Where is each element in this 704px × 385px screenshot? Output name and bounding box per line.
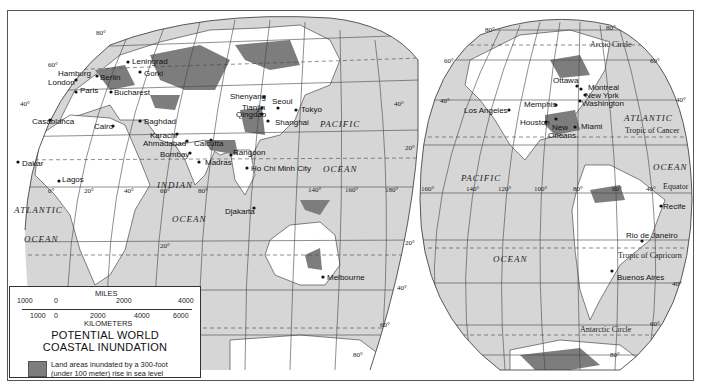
km-tick-2000: 2000 [90, 312, 106, 319]
city-houston: Houston [520, 118, 550, 127]
svg-text:ATLANTIC: ATLANTIC [13, 205, 63, 215]
city-london: London [48, 78, 75, 87]
city-madras: Madras [205, 158, 232, 167]
city-hochiminh: Ho Chi Minh City [251, 164, 311, 173]
city-djakarta: Djakarta [225, 207, 255, 216]
city-ottawa: Ottawa [553, 76, 579, 85]
svg-text:40°: 40° [20, 100, 30, 108]
map-legend: MILES 1000 0 2000 4000 1000 0 2000 4000 … [9, 286, 201, 378]
svg-text:100°: 100° [534, 185, 548, 193]
svg-text:Tropic of Cancer: Tropic of Cancer [625, 126, 680, 135]
svg-text:PACIFIC: PACIFIC [319, 119, 360, 129]
svg-text:80°: 80° [573, 185, 583, 193]
legend-description: Land areas inundated by a 300-foot (unde… [51, 361, 168, 378]
svg-text:40°: 40° [124, 187, 134, 195]
svg-text:40°: 40° [394, 100, 404, 108]
city-gorki: Gorki [144, 69, 163, 78]
city-miami: Miami [581, 122, 603, 131]
km-tick-1000: 1000 [30, 312, 46, 319]
city-neworleans-2: Orleans [548, 131, 576, 140]
city-tokyo: Tokyo [301, 105, 322, 114]
svg-text:OCEAN: OCEAN [323, 164, 358, 174]
svg-text:Equator: Equator [663, 182, 689, 191]
svg-text:80°: 80° [96, 29, 106, 37]
city-losangeles: Los Angeles [464, 106, 508, 115]
city-washington: Washington [582, 99, 624, 108]
svg-text:Antarctic Circle: Antarctic Circle [580, 325, 632, 334]
svg-text:20°: 20° [405, 239, 415, 247]
svg-text:OCEAN: OCEAN [493, 254, 528, 264]
svg-text:60°: 60° [650, 57, 660, 65]
svg-text:20°: 20° [160, 242, 170, 250]
city-shanghai: Shanghai [275, 118, 309, 127]
city-baghdad: Baghdad [144, 117, 176, 126]
scale-km-label: KILOMETERS [84, 319, 132, 328]
svg-text:180°: 180° [385, 186, 399, 194]
map-title-line1: POTENTIAL WORLD [10, 329, 200, 341]
city-dakar: Dakar [22, 159, 44, 168]
svg-text:60°: 60° [160, 187, 170, 195]
scale-bar [22, 309, 192, 310]
city-melbourne: Melbourne [327, 273, 365, 282]
svg-text:OCEAN: OCEAN [172, 214, 207, 224]
miles-tick-4000: 4000 [178, 297, 194, 304]
svg-text:20°: 20° [84, 187, 94, 195]
svg-text:40°: 40° [676, 96, 686, 104]
svg-text:ATLANTIC: ATLANTIC [623, 113, 673, 123]
svg-text:160°: 160° [345, 186, 359, 194]
svg-text:40°: 40° [672, 280, 682, 288]
city-leningrad: Leningrad [132, 57, 168, 66]
city-seoul: Seoul [272, 97, 293, 106]
svg-text:60°: 60° [650, 320, 660, 328]
city-buenosaires: Buenos Aires [617, 273, 664, 282]
miles-tick-0: 0 [54, 297, 58, 304]
svg-text:OCEAN: OCEAN [653, 162, 688, 172]
city-rio: Rio de Janeiro [626, 231, 678, 240]
svg-text:20°: 20° [405, 144, 415, 152]
inundation-swatch [28, 361, 47, 377]
svg-text:120°: 120° [498, 185, 512, 193]
city-calcutta: Calcutta [194, 139, 224, 148]
city-casablanca: Casablanca [32, 117, 75, 126]
svg-text:80°: 80° [606, 24, 616, 32]
city-qingdao: Qingdao [236, 110, 267, 119]
city-hamburg: Hamburg [58, 69, 91, 78]
city-lagos: Lagos [62, 175, 84, 184]
miles-tick-2000: 2000 [116, 297, 132, 304]
km-tick-6000: 6000 [173, 312, 189, 319]
city-ahmadabad: Ahmadabad [143, 139, 186, 148]
svg-text:Arctic Circle: Arctic Circle [590, 40, 632, 49]
svg-text:40°: 40° [397, 284, 407, 292]
svg-text:80°: 80° [353, 351, 363, 359]
km-tick-4000: 4000 [134, 312, 150, 319]
city-memphis: Memphis [524, 100, 556, 109]
svg-text:Tropic of Capricorn: Tropic of Capricorn [618, 251, 682, 260]
svg-text:PACIFIC: PACIFIC [460, 173, 501, 183]
city-bucharest: Bucharest [114, 88, 151, 97]
svg-text:60°: 60° [48, 61, 58, 69]
svg-text:OCEAN: OCEAN [24, 234, 59, 244]
svg-text:60°: 60° [444, 57, 454, 65]
city-bombay: Bombay [160, 150, 189, 159]
svg-text:140°: 140° [308, 186, 322, 194]
svg-text:60°: 60° [380, 321, 390, 329]
svg-text:80°: 80° [610, 351, 620, 359]
svg-text:140°: 140° [466, 185, 480, 193]
map-title-line2: COASTAL INUNDATION [10, 341, 200, 353]
svg-text:40°: 40° [646, 185, 656, 193]
city-paris: Paris [80, 86, 98, 95]
svg-text:160°: 160° [421, 185, 435, 193]
city-recife: Recife [663, 202, 686, 211]
svg-text:40°: 40° [440, 97, 450, 105]
city-rangoon: Rangoon [233, 148, 265, 157]
svg-text:80°: 80° [198, 187, 208, 195]
city-cairo: Cairo [94, 122, 114, 131]
km-tick-0: 0 [54, 312, 58, 319]
svg-text:80°: 80° [485, 26, 495, 34]
scale-miles-label: MILES [95, 289, 118, 298]
miles-tick-1000: 1000 [17, 297, 33, 304]
svg-text:0°: 0° [48, 187, 55, 195]
svg-text:60°: 60° [612, 185, 622, 193]
city-berlin: Berlin [100, 73, 120, 82]
city-shenyang: Shenyang [230, 92, 266, 101]
